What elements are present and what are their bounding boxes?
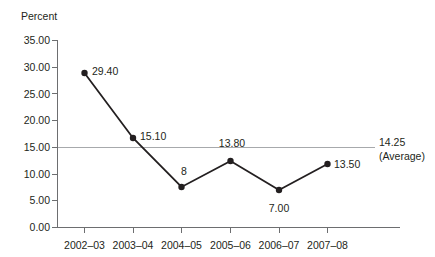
y-tick-label-35: 35.00 xyxy=(24,34,50,46)
data-point-2004-05 xyxy=(178,184,184,190)
data-label-2004-05: 8 xyxy=(181,165,187,177)
y-axis-title: Percent xyxy=(21,10,57,22)
y-tick-label-5: 5.00 xyxy=(30,194,51,206)
y-tick-label-20: 20.00 xyxy=(24,114,50,126)
data-point-2003-04 xyxy=(130,135,136,141)
x-tick-label-2004-05: 2004–05 xyxy=(161,239,202,251)
data-label-2007-08: 13.50 xyxy=(334,158,360,170)
average-line-note-label: (Average) xyxy=(379,150,425,162)
chart-canvas: Percent 35.00 30.00 25.00 20.00 15.00 10… xyxy=(0,0,435,257)
data-label-2002-03: 29.40 xyxy=(92,65,118,77)
x-tick-label-2006-07: 2006–07 xyxy=(259,239,300,251)
data-label-2003-04: 15.10 xyxy=(140,130,166,142)
data-point-2002-03 xyxy=(81,70,87,76)
data-label-2006-07: 7.00 xyxy=(269,202,290,214)
y-tick-label-10: 10.00 xyxy=(24,168,50,180)
data-point-2006-07 xyxy=(276,187,282,193)
x-tick-label-2007-08: 2007–08 xyxy=(307,239,348,251)
average-line-value-label: 14.25 xyxy=(379,136,405,148)
percent-line-chart: Percent 35.00 30.00 25.00 20.00 15.00 10… xyxy=(0,0,435,257)
data-point-2007-08 xyxy=(324,161,330,167)
x-tick-label-2003-04: 2003–04 xyxy=(113,239,154,251)
y-tick-label-30: 30.00 xyxy=(24,61,50,73)
x-tick-label-2002-03: 2002–03 xyxy=(64,239,105,251)
data-label-2005-06: 13.80 xyxy=(219,137,245,149)
y-tick-label-0: 0.00 xyxy=(30,221,51,233)
y-tick-label-15: 15.00 xyxy=(24,141,50,153)
x-tick-label-2005-06: 2005–06 xyxy=(210,239,251,251)
data-point-2005-06 xyxy=(227,158,233,164)
y-tick-label-25: 25.00 xyxy=(24,88,50,100)
series-line-percent xyxy=(85,73,328,190)
